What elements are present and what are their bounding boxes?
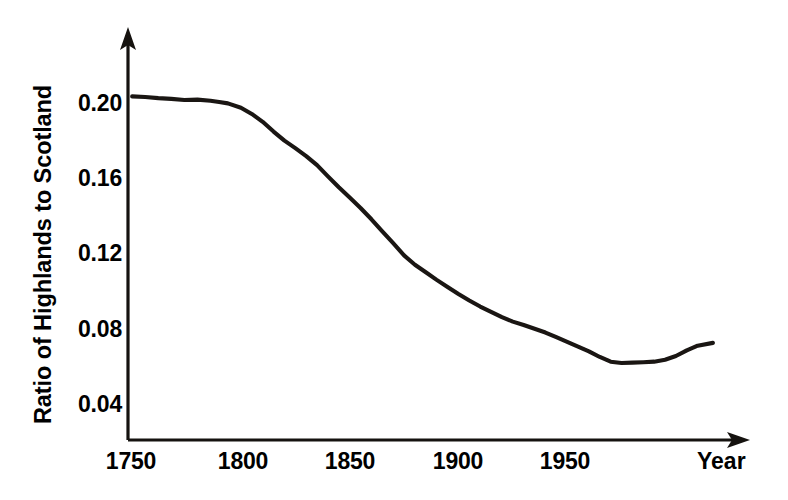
- x-tick-label-1950: 1950: [540, 448, 590, 475]
- x-tick-label-1900: 1900: [433, 448, 483, 475]
- x-axis-title: Year: [697, 448, 746, 475]
- x-tick-label-1850: 1850: [325, 448, 375, 475]
- x-tick-label-1800: 1800: [218, 448, 268, 475]
- chart-figure: 0.20 0.16 0.12 0.08 0.04 1750 1800 1850 …: [0, 0, 788, 500]
- data-series-line: [132, 96, 713, 363]
- x-tick-label-1750: 1750: [106, 448, 156, 475]
- y-axis-title: Ratio of Highlands to Scotland: [30, 85, 57, 424]
